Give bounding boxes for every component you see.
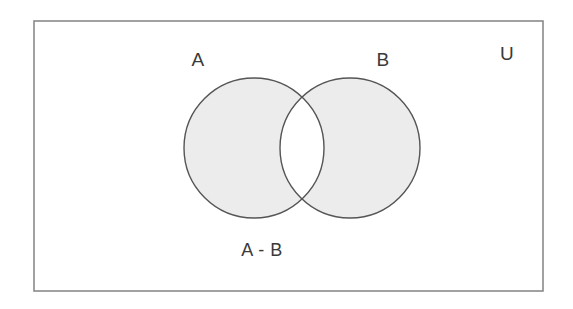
venn-diagram-canvas: A B U A - B: [0, 0, 573, 309]
universal-set-label: U: [500, 43, 514, 64]
set-difference-caption: A - B: [241, 240, 283, 260]
set-b-label: B: [376, 49, 389, 70]
set-b-only-shaded-region: [0, 0, 573, 309]
set-a-label: A: [191, 49, 204, 70]
venn-diagram-svg: A B U A - B: [0, 0, 573, 309]
